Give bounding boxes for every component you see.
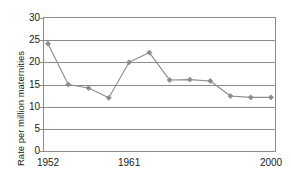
x-tick-label: 1952 bbox=[28, 157, 68, 168]
x-axis-tick-labels: 195219612000 bbox=[0, 0, 291, 190]
x-tick-label: 1961 bbox=[109, 157, 149, 168]
x-tick-label: 2000 bbox=[251, 157, 291, 168]
chart-figure: Rate per million maternities 05101520253… bbox=[0, 0, 291, 190]
